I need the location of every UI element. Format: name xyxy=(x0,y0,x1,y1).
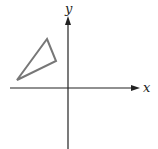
y-axis-label: y xyxy=(64,1,73,16)
x-axis-label: x xyxy=(143,80,151,95)
y-axis-arrow-icon xyxy=(65,16,71,25)
x-axis-arrow-icon xyxy=(131,85,140,91)
coordinate-plane: y x xyxy=(0,0,158,149)
triangle xyxy=(17,39,56,80)
